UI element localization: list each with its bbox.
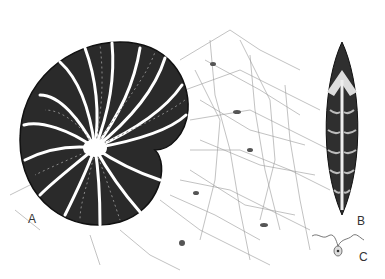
label-a: A	[28, 212, 36, 226]
spindle-shell	[326, 42, 358, 215]
illustration	[0, 0, 385, 279]
flagellate-cell	[312, 235, 364, 256]
label-b: B	[357, 214, 365, 228]
label-c: C	[359, 250, 368, 264]
coiled-shell	[20, 42, 188, 225]
network-nuclei	[179, 62, 268, 246]
